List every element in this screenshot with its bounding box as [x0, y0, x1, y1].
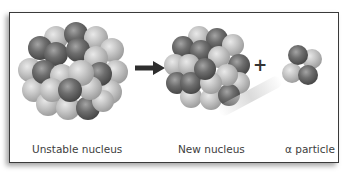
label-alpha-particle: α particle: [285, 143, 335, 155]
proton: [194, 58, 216, 80]
label-unstable-nucleus: Unstable nucleus: [32, 143, 122, 155]
unstable-nucleus: [14, 20, 126, 120]
proton: [298, 65, 318, 85]
label-new-nucleus: New nucleus: [178, 143, 245, 155]
arrow-right-icon: [135, 61, 165, 75]
plus-sign: +: [253, 57, 267, 74]
proton: [58, 78, 82, 102]
alpha-particle: [282, 45, 328, 89]
proton: [288, 45, 308, 65]
